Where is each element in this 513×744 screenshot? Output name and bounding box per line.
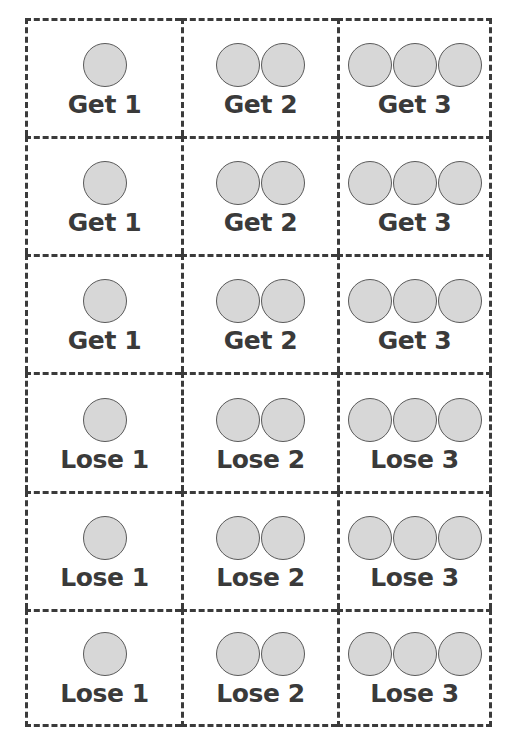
grid-cell[interactable]: Lose 1 [25, 491, 181, 609]
token-group [347, 160, 482, 206]
token-group [216, 278, 306, 324]
circle-token-icon [261, 398, 305, 442]
cell-label: Get 1 [68, 92, 142, 117]
circle-token-icon [261, 279, 305, 323]
token-group [82, 42, 127, 88]
circle-token-icon [83, 632, 127, 676]
circle-token-icon [216, 632, 260, 676]
circle-token-icon [438, 632, 482, 676]
grid-cell[interactable]: Get 3 [337, 18, 492, 136]
token-group [216, 631, 306, 677]
circle-token-icon [348, 516, 392, 560]
token-group [347, 631, 482, 677]
circle-token-icon [393, 279, 437, 323]
circle-token-icon [216, 43, 260, 87]
token-group [82, 397, 127, 443]
token-group [216, 515, 306, 561]
cell-label: Lose 1 [60, 447, 149, 472]
circle-token-icon [83, 279, 127, 323]
token-grid-stage: Get 1Get 2Get 3Get 1Get 2Get 3Get 1Get 2… [0, 0, 513, 744]
circle-token-icon [393, 161, 437, 205]
circle-token-icon [83, 161, 127, 205]
grid-cell[interactable]: Get 2 [181, 254, 337, 372]
token-group [216, 397, 306, 443]
grid-cell[interactable]: Get 1 [25, 136, 181, 254]
grid-cell[interactable]: Lose 1 [25, 372, 181, 490]
circle-token-icon [83, 516, 127, 560]
grid-cell[interactable]: Lose 1 [25, 609, 181, 727]
cell-label: Get 1 [68, 328, 142, 353]
circle-token-icon [438, 43, 482, 87]
cell-label: Lose 3 [370, 681, 459, 706]
token-group [82, 515, 127, 561]
cell-label: Lose 3 [370, 447, 459, 472]
circle-token-icon [393, 398, 437, 442]
circle-token-icon [216, 279, 260, 323]
cell-label: Lose 3 [370, 565, 459, 590]
cell-label: Get 2 [224, 210, 298, 235]
circle-token-icon [393, 516, 437, 560]
token-group [216, 42, 306, 88]
circle-token-icon [348, 632, 392, 676]
cell-label: Lose 2 [216, 447, 305, 472]
circle-token-icon [348, 43, 392, 87]
cell-label: Lose 1 [60, 681, 149, 706]
circle-token-icon [83, 43, 127, 87]
grid-cell[interactable]: Lose 2 [181, 609, 337, 727]
token-group [82, 631, 127, 677]
circle-token-icon [216, 516, 260, 560]
circle-token-icon [348, 161, 392, 205]
token-group [216, 160, 306, 206]
grid-cell[interactable]: Get 3 [337, 136, 492, 254]
circle-token-icon [216, 398, 260, 442]
cell-label: Get 3 [378, 328, 452, 353]
circle-token-icon [216, 161, 260, 205]
grid-cell[interactable]: Lose 3 [337, 372, 492, 490]
grid-cell[interactable]: Lose 2 [181, 491, 337, 609]
token-group [82, 160, 127, 206]
grid-cell[interactable]: Get 2 [181, 136, 337, 254]
cell-label: Lose 2 [216, 565, 305, 590]
circle-token-icon [348, 398, 392, 442]
circle-token-icon [83, 398, 127, 442]
token-group [347, 278, 482, 324]
circle-token-icon [261, 161, 305, 205]
cell-label: Lose 1 [60, 565, 149, 590]
cell-label: Get 2 [224, 328, 298, 353]
circle-token-icon [438, 398, 482, 442]
circle-token-icon [261, 632, 305, 676]
token-group [347, 515, 482, 561]
grid-cell[interactable]: Get 3 [337, 254, 492, 372]
token-group [347, 42, 482, 88]
circle-token-icon [261, 43, 305, 87]
grid-cell[interactable]: Get 2 [181, 18, 337, 136]
grid-cell[interactable]: Get 1 [25, 18, 181, 136]
cell-label: Get 3 [378, 210, 452, 235]
cell-label: Lose 2 [216, 681, 305, 706]
grid-cell[interactable]: Get 1 [25, 254, 181, 372]
grid-cell[interactable]: Lose 3 [337, 491, 492, 609]
circle-token-icon [438, 161, 482, 205]
circle-token-icon [261, 516, 305, 560]
circle-token-icon [438, 516, 482, 560]
cell-label: Get 1 [68, 210, 142, 235]
token-group [82, 278, 127, 324]
circle-token-icon [393, 632, 437, 676]
cell-label: Get 3 [378, 92, 452, 117]
circle-token-icon [348, 279, 392, 323]
circle-token-icon [438, 279, 482, 323]
grid-cell[interactable]: Lose 3 [337, 609, 492, 727]
reward-loss-grid: Get 1Get 2Get 3Get 1Get 2Get 3Get 1Get 2… [25, 18, 492, 727]
grid-cell[interactable]: Lose 2 [181, 372, 337, 490]
cell-label: Get 2 [224, 92, 298, 117]
token-group [347, 397, 482, 443]
circle-token-icon [393, 43, 437, 87]
